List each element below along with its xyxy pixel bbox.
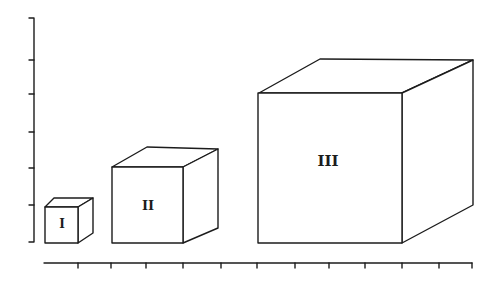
cube-ii-label: II [142,198,154,213]
cube-iii-label: III [317,152,338,170]
cube-i: I [45,198,93,243]
x-axis [44,263,472,268]
cube-chart: I II III [0,0,494,284]
cube-i-label: I [59,217,65,231]
y-axis [29,18,34,242]
cube-iii: III [258,59,473,243]
cube-ii: II [112,147,218,243]
cube-iii-side-face [402,60,473,243]
